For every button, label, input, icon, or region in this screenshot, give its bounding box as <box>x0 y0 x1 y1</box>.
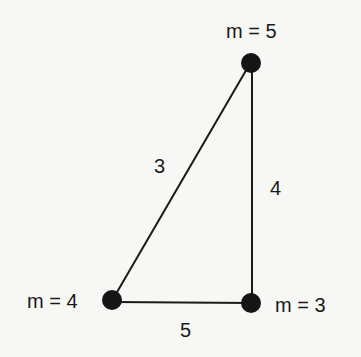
triangle-graph: m = 5 m = 4 m = 3 3 4 5 <box>0 0 361 357</box>
edge-label-5: 5 <box>180 319 191 341</box>
edge-label-3: 3 <box>154 155 165 177</box>
node-top <box>241 53 261 73</box>
node-top-label: m = 5 <box>226 20 277 42</box>
node-bottom-left-label: m = 4 <box>27 290 78 312</box>
edge-bottom-left-bottom-right <box>112 302 251 303</box>
node-bottom-left <box>102 290 122 310</box>
edge-top-bottom-left <box>113 67 248 299</box>
node-bottom-right <box>241 293 261 313</box>
node-bottom-right-label: m = 3 <box>275 294 326 316</box>
edge-label-4: 4 <box>270 177 281 199</box>
